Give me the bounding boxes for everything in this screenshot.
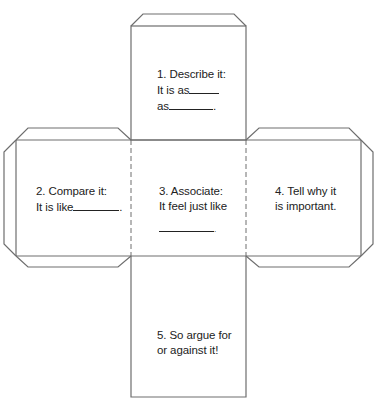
face-2-line-2: It is like bbox=[36, 201, 73, 213]
blank-line bbox=[73, 199, 119, 211]
face-4-importance: 4. Tell why it is important. bbox=[275, 184, 335, 214]
blank-line bbox=[189, 82, 219, 94]
face-2-title: 2. Compare it: bbox=[36, 184, 122, 199]
face-1-end-mark: . bbox=[213, 100, 216, 112]
blank-line bbox=[159, 220, 214, 232]
face-4-title: 4. Tell why it bbox=[275, 184, 335, 199]
right-face-outer-flap bbox=[361, 140, 373, 256]
face-1-describe: 1. Describe it: It is as as. bbox=[157, 67, 226, 114]
face-2-compare: 2. Compare it: It is like. bbox=[36, 184, 122, 215]
bottom-face-outline bbox=[131, 256, 246, 397]
face-2-end-mark: . bbox=[119, 201, 122, 213]
face-1-title: 1. Describe it: bbox=[157, 67, 226, 82]
face-3-title: 3. Associate: bbox=[159, 184, 227, 199]
left-face-outer-flap bbox=[4, 140, 16, 256]
face-5-title: 5. So argue for bbox=[157, 328, 232, 343]
face-4-line-2: is important. bbox=[275, 199, 335, 214]
left-face-bottom-flap bbox=[16, 256, 131, 267]
face-3-end-mark: . bbox=[214, 225, 216, 234]
face-1-line-2: It is as bbox=[157, 84, 189, 96]
left-face-top-flap bbox=[16, 128, 131, 140]
blank-line bbox=[169, 98, 213, 110]
face-1-line-3: as bbox=[157, 100, 169, 112]
top-face-flap bbox=[131, 14, 246, 26]
right-face-top-flap bbox=[246, 128, 361, 140]
right-face-bottom-flap bbox=[246, 256, 361, 267]
face-3-associate: 3. Associate: It feel just like . bbox=[159, 184, 227, 237]
face-5-argue: 5. So argue for or against it! bbox=[157, 328, 232, 358]
face-5-line-2: or against it! bbox=[157, 343, 232, 358]
face-3-line-2: It feel just like bbox=[159, 199, 227, 214]
